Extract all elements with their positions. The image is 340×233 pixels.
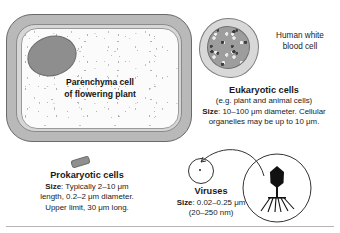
phage-tail-sheath <box>276 187 278 198</box>
viruses-size-line-2: (20–250 nm) <box>152 208 270 219</box>
white-blood-cell-label: Human white blood cell <box>262 30 338 52</box>
prokaryotic-size-label: Size <box>45 182 61 191</box>
parenchyma-plant-cell-illustration: Parenchyma cell of flowering plant <box>6 14 192 142</box>
eukaryotic-size-line-1: Size: 10–100 μm diameter. Cellular <box>188 107 340 118</box>
human-white-blood-cell-illustration <box>199 18 259 78</box>
eukaryotic-cells-subtitle: (e.g. plant and animal cells) <box>188 96 340 107</box>
prokaryotic-size-line-1: Size: Typically 2–10 μm <box>6 182 168 193</box>
viruses-caption: Viruses Size: 0.02–0.25 μm (20–250 nm) <box>152 185 270 219</box>
wbc-label-line1: Human white <box>262 30 338 41</box>
wbc-nucleus-icon <box>207 26 250 69</box>
phage-head <box>270 166 284 188</box>
viruses-size-line-1: Size: 0.02–0.25 μm <box>152 198 270 209</box>
eukaryotic-size-value-1: : 10–100 μm diameter. Cellular <box>218 107 326 116</box>
viruses-title: Viruses <box>152 185 270 198</box>
prokaryotic-size-value-1: : Typically 2–10 μm <box>61 182 129 191</box>
eukaryotic-cells-title: Eukaryotic cells <box>188 84 340 96</box>
prokaryotic-cells-caption: Prokaryotic cells Size: Typically 2–10 μ… <box>6 169 168 214</box>
magnification-leader-line <box>186 140 272 180</box>
plant-cell-label-line1: Parenchyma cell <box>7 77 192 89</box>
eukaryotic-cells-caption: Eukaryotic cells (e.g. plant and animal … <box>188 84 340 128</box>
viruses-size-label: Size <box>177 198 193 207</box>
prokaryotic-rod-cell-icon <box>70 155 91 168</box>
leader-curve <box>201 150 264 176</box>
eukaryotic-size-line-2: organelles may be up to 10 μm. <box>188 117 340 128</box>
viruses-size-value-1: : 0.02–0.25 μm <box>192 198 245 207</box>
prokaryotic-size-line-2: length, 0.2–2 μm diameter. <box>6 192 168 203</box>
prokaryotic-cells-title: Prokaryotic cells <box>6 169 168 182</box>
cell-size-comparison-figure: Parenchyma cell of flowering plant Human… <box>0 0 340 233</box>
eukaryotic-size-label: Size <box>202 107 218 116</box>
plant-cell-label: Parenchyma cell of flowering plant <box>7 77 192 100</box>
prokaryotic-size-line-3: Upper limit, 30 μm long. <box>6 203 168 214</box>
plant-cell-label-line2: of flowering plant <box>7 89 192 101</box>
phage-baseplate <box>268 197 286 199</box>
figure-bottom-rule <box>6 226 334 227</box>
wbc-label-line2: blood cell <box>262 41 338 52</box>
